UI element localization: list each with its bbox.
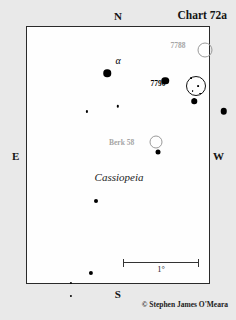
compass-east-label: E — [12, 150, 19, 162]
star-star-mid-faint-b — [117, 105, 119, 107]
sky-field-frame: 77887790Berk 58αβ Cassiopeia 1° — [26, 26, 210, 284]
star-star-left-faint-1 — [70, 282, 72, 284]
star-star-mid-faint-a — [86, 110, 88, 112]
cluster-berk-58-circle — [150, 136, 163, 149]
page-title: Chart 72a — [177, 9, 227, 21]
star-ngc7790-member-4 — [199, 93, 201, 95]
copyright-notice: © Stephen James O'Meara — [142, 300, 228, 309]
compass-south-label: S — [0, 288, 236, 300]
star-star-left-mid-1 — [89, 271, 93, 275]
star-ngc7790-member-3 — [192, 90, 194, 92]
cluster-label-berk-58: Berk 58 — [109, 138, 134, 147]
scale-bar: 1° — [123, 259, 199, 275]
star-alpha-cas — [103, 69, 111, 77]
constellation-label: Cassiopeia — [95, 171, 144, 183]
star-designation-alpha: α — [115, 55, 120, 66]
star-star-7790-marker — [162, 77, 170, 85]
cluster-7788-circle — [198, 43, 213, 58]
compass-west-label: W — [213, 150, 224, 162]
scale-bar-label: 1° — [123, 264, 199, 274]
star-ngc7790-member-1 — [190, 77, 192, 79]
star-star-lower-left-1 — [94, 199, 98, 203]
star-star-center-upper — [156, 150, 161, 155]
star-ngc7790-member-5 — [194, 98, 196, 100]
star-star-east-of-7790 — [220, 108, 227, 115]
star-chart: N Chart 72a E W S © Stephen James O'Mear… — [0, 0, 236, 320]
star-ngc7790-member-2 — [197, 85, 199, 87]
scale-bar-line — [123, 262, 199, 263]
sky-field: 77887790Berk 58αβ — [27, 27, 209, 283]
cluster-label-7788: 7788 — [171, 40, 186, 49]
